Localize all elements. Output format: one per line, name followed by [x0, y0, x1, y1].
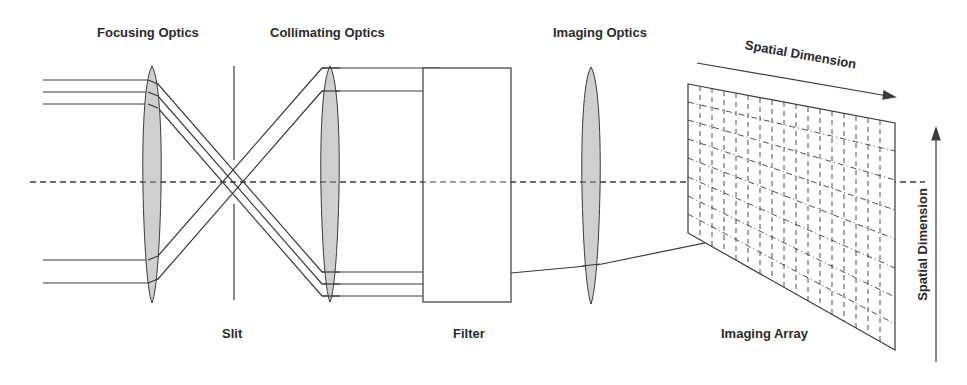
label-spatial-dimension-vertical: Spatial Dimension — [916, 185, 929, 305]
label-filter: Filter — [453, 327, 485, 340]
label-collimating-optics: Collimating Optics — [270, 26, 385, 39]
arrowhead-up-icon — [932, 128, 940, 140]
filter — [423, 68, 511, 302]
collimating-lens — [321, 66, 339, 302]
label-imaging-optics: Imaging Optics — [553, 26, 647, 39]
focusing-lens — [143, 66, 161, 303]
label-imaging-array: Imaging Array — [721, 327, 808, 340]
arrowhead-right-icon — [883, 91, 895, 99]
incoming-rays-top — [43, 80, 322, 296]
label-slit: Slit — [222, 327, 242, 340]
incoming-rays-bottom — [43, 68, 322, 283]
imaging-array — [688, 84, 895, 350]
imaging-lens — [582, 67, 600, 304]
label-focusing-optics: Focusing Optics — [97, 26, 199, 39]
